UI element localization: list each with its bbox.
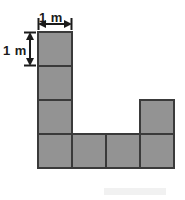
width-dimension-label: 1 m [39,11,63,24]
unit-square-c3r2 [140,100,174,134]
unit-square-c1r3 [72,134,106,168]
unit-square-c0r2 [38,100,72,134]
area-figure: 1 m 1 m [0,0,185,200]
unit-square-c0r1 [38,66,72,100]
unit-square-c0r0 [38,32,72,66]
unit-square-c3r3 [140,134,174,168]
unit-square-c0r3 [38,134,72,168]
unit-square-figure-svg [0,0,185,200]
unit-square-group [38,32,174,168]
unit-square-c2r3 [106,134,140,168]
scan-artifact [104,188,166,195]
height-dimension-label: 1 m [3,44,27,57]
